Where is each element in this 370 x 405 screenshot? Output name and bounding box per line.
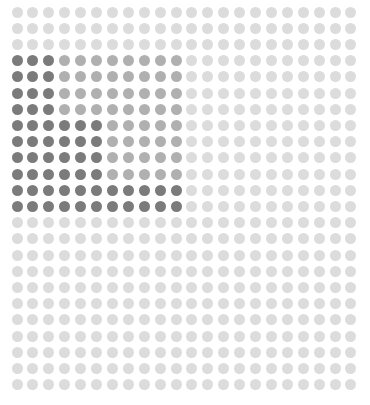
dot-dark: [155, 201, 166, 212]
dot-dark: [27, 88, 38, 99]
dot-light: [345, 104, 356, 115]
dot-light: [298, 152, 309, 163]
dot-light: [266, 379, 277, 390]
dot-light: [266, 217, 277, 228]
dot-light: [314, 7, 325, 18]
dot-medium: [123, 88, 134, 99]
dot-light: [107, 39, 118, 50]
dot-light: [123, 266, 134, 277]
dot-light: [202, 152, 213, 163]
dot-light: [234, 7, 245, 18]
dot-light: [345, 136, 356, 147]
dot-medium: [107, 71, 118, 82]
dot-light: [330, 379, 341, 390]
dot-light: [298, 233, 309, 244]
dot-dark: [59, 201, 70, 212]
dot-medium: [107, 55, 118, 66]
dot-light: [250, 233, 261, 244]
dot-light: [218, 136, 229, 147]
dot-light: [59, 233, 70, 244]
dot-dark: [27, 136, 38, 147]
dot-light: [107, 363, 118, 374]
dot-light: [75, 39, 86, 50]
dot-light: [314, 266, 325, 277]
dot-light: [218, 331, 229, 342]
dot-light: [314, 120, 325, 131]
dot-light: [250, 23, 261, 34]
dot-light: [171, 314, 182, 325]
dot-light: [171, 282, 182, 293]
dot-light: [27, 314, 38, 325]
dot-light: [139, 39, 150, 50]
dot-dark: [43, 136, 54, 147]
dot-light: [266, 331, 277, 342]
dot-dark: [155, 185, 166, 196]
dot-medium: [107, 136, 118, 147]
dot-light: [250, 363, 261, 374]
dot-light: [155, 298, 166, 309]
dot-light: [155, 282, 166, 293]
dot-light: [345, 7, 356, 18]
dot-light: [59, 39, 70, 50]
dot-light: [43, 7, 54, 18]
dot-light: [155, 347, 166, 358]
dot-light: [314, 152, 325, 163]
dot-light: [250, 331, 261, 342]
dot-light: [107, 23, 118, 34]
dot-light: [59, 314, 70, 325]
dot-light: [43, 233, 54, 244]
dot-light: [266, 39, 277, 50]
dot-light: [91, 363, 102, 374]
dot-light: [250, 266, 261, 277]
dot-light: [75, 23, 86, 34]
dot-light: [27, 379, 38, 390]
dot-light: [123, 282, 134, 293]
dot-light: [123, 347, 134, 358]
dot-light: [282, 120, 293, 131]
dot-medium: [123, 152, 134, 163]
dot-light: [27, 233, 38, 244]
dot-light: [123, 217, 134, 228]
dot-light: [91, 23, 102, 34]
dot-light: [43, 217, 54, 228]
dot-light: [12, 331, 23, 342]
dot-light: [218, 363, 229, 374]
dot-light: [330, 71, 341, 82]
dot-light: [234, 88, 245, 99]
dot-light: [186, 282, 197, 293]
dot-dark: [12, 136, 23, 147]
dot-light: [330, 88, 341, 99]
dot-light: [186, 298, 197, 309]
dot-light: [186, 23, 197, 34]
dot-light: [250, 250, 261, 261]
dot-light: [107, 233, 118, 244]
dot-light: [202, 331, 213, 342]
dot-light: [234, 136, 245, 147]
dot-light: [298, 250, 309, 261]
dot-light: [75, 298, 86, 309]
dot-light: [202, 136, 213, 147]
dot-light: [91, 7, 102, 18]
dot-light: [43, 331, 54, 342]
dot-light: [218, 233, 229, 244]
dot-light: [282, 55, 293, 66]
dot-light: [266, 282, 277, 293]
dot-medium: [171, 71, 182, 82]
dot-light: [234, 39, 245, 50]
dot-light: [59, 331, 70, 342]
dot-light: [107, 331, 118, 342]
dot-light: [27, 282, 38, 293]
dot-light: [345, 217, 356, 228]
dot-light: [43, 266, 54, 277]
dot-light: [27, 347, 38, 358]
dot-light: [91, 39, 102, 50]
dot-light: [250, 298, 261, 309]
dot-light: [171, 347, 182, 358]
dot-light: [218, 250, 229, 261]
dot-light: [91, 282, 102, 293]
dot-light: [59, 250, 70, 261]
dot-dark: [27, 71, 38, 82]
dot-light: [266, 169, 277, 180]
dot-light: [12, 363, 23, 374]
dot-medium: [155, 88, 166, 99]
